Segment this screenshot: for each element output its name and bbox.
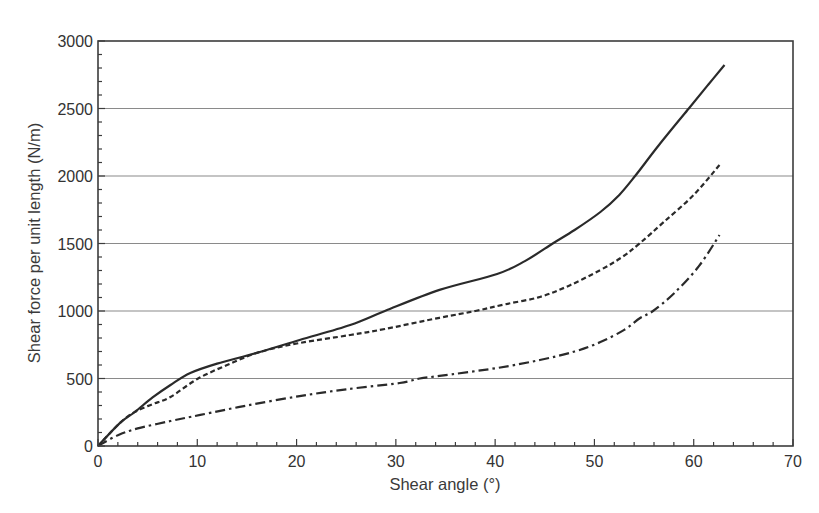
y-tick-label: 1500 [57,236,93,253]
y-tick-label: 2000 [57,168,93,185]
x-axis-label: Shear angle (°) [389,475,500,493]
series-dash-dot-line [98,235,720,446]
x-tick-labels: 010203040506070 [94,453,802,470]
series-solid-line [98,65,725,446]
y-tick-label: 2500 [57,101,93,118]
series-dashed-line [98,165,720,446]
y-tick-label: 1000 [57,303,93,320]
y-axis-ticks [98,41,105,446]
x-tick-label: 70 [784,453,802,470]
x-tick-label: 60 [685,453,703,470]
gridlines [98,109,793,379]
y-tick-label: 500 [66,371,93,388]
line-chart: 010203040506070 050010001500200025003000… [0,0,819,513]
x-axis-ticks [98,439,793,446]
x-tick-label: 20 [288,453,306,470]
x-tick-label: 40 [486,453,504,470]
y-tick-labels: 050010001500200025003000 [57,33,93,455]
x-tick-label: 30 [387,453,405,470]
x-tick-label: 10 [188,453,206,470]
series-lines [98,65,725,446]
y-tick-label: 0 [84,438,93,455]
y-tick-label: 3000 [57,33,93,50]
x-tick-label: 50 [586,453,604,470]
x-tick-label: 0 [94,453,103,470]
y-axis-label: Shear force per unit length (N/m) [25,123,43,363]
